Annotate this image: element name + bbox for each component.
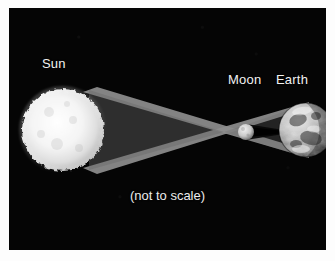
eclipse-diagram: Sun Moon Earth (not to scale): [0, 0, 335, 261]
sun-body: [19, 86, 107, 174]
light-cone-body: [89, 90, 224, 170]
label-earth: Earth: [276, 72, 308, 87]
diagram-canvas: [9, 8, 326, 250]
label-sun: Sun: [42, 56, 66, 71]
earth-body: [279, 103, 326, 157]
moon-body: [238, 124, 254, 140]
caption-not-to-scale: (not to scale): [9, 188, 326, 203]
label-moon: Moon: [228, 72, 261, 87]
sky-panel: Sun Moon Earth (not to scale): [9, 8, 326, 250]
